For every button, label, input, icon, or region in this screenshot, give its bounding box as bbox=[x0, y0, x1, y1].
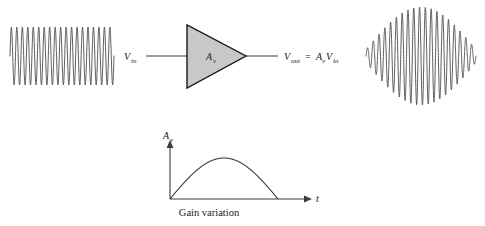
x-axis-arrowhead-icon bbox=[304, 196, 312, 203]
output-waveform-path bbox=[366, 7, 476, 105]
vout-equals-sign: = bbox=[305, 51, 311, 62]
gain-variation-plot: A v t Gain variation bbox=[162, 130, 319, 218]
amplifier-gain-label: A bbox=[205, 51, 213, 62]
vout-equation-label: V out = A v V in bbox=[284, 51, 339, 65]
input-waveform-path bbox=[10, 27, 114, 85]
vin-label: V in bbox=[124, 51, 137, 65]
output-waveform bbox=[366, 7, 476, 105]
vin-label-subscript: in bbox=[131, 57, 137, 65]
amplifier-triangle bbox=[187, 25, 246, 88]
vout-signal-subscript: in bbox=[333, 57, 339, 65]
amplifier-gain-diagram: V in A v V out = A v V in A v t bbox=[0, 0, 485, 226]
input-waveform bbox=[10, 27, 114, 85]
amplifier-symbol: A v bbox=[187, 25, 246, 88]
gain-variation-curve bbox=[170, 158, 278, 199]
gain-plot-caption: Gain variation bbox=[179, 207, 240, 218]
gain-plot-y-label-subscript: v bbox=[170, 136, 174, 144]
vout-label-subscript: out bbox=[291, 57, 301, 65]
gain-plot-x-label: t bbox=[316, 193, 319, 204]
gain-plot-y-label: A bbox=[162, 130, 170, 141]
